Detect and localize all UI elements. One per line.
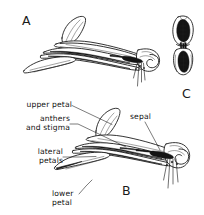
label-lateral-line1: lateral — [0, 147, 63, 156]
label-lower-line2: petal — [52, 198, 92, 207]
label-anthers-line1: anthers — [0, 114, 70, 123]
panel-label-c: C — [182, 88, 191, 101]
label-upper-petal: upper petal — [0, 100, 72, 109]
label-lower-petal: lower petal — [52, 189, 92, 207]
label-anthers-and-stigma: anthers and stigma — [0, 114, 70, 132]
panel-label-a: A — [22, 15, 31, 28]
label-sepal: sepal — [130, 112, 151, 121]
panel-label-b: B — [122, 185, 131, 198]
label-lateral-line2: petals — [0, 156, 63, 165]
label-lower-line1: lower — [52, 189, 92, 198]
anther-upper-dark-c — [177, 20, 190, 42]
botanical-figure: .ol { fill: none; stroke: #111111; strok… — [0, 0, 204, 215]
label-lateral-petals: lateral petals — [0, 147, 63, 165]
label-anthers-line2: and stigma — [0, 123, 70, 132]
